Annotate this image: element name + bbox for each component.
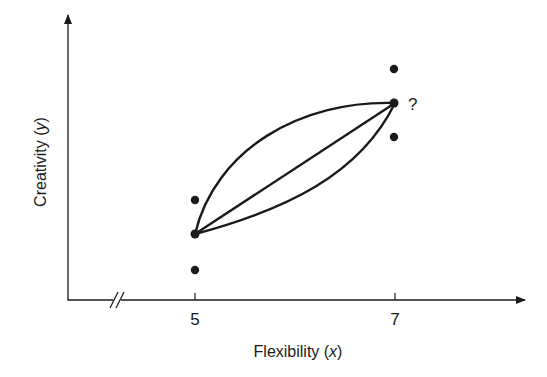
- question-mark-annotation: ?: [408, 95, 417, 114]
- x-tick-label-7: 7: [390, 310, 399, 329]
- straight-line: [195, 103, 395, 234]
- data-point-5-mid: [191, 230, 200, 239]
- data-point-5-high: [191, 196, 199, 204]
- data-point-7-mid: [390, 99, 399, 108]
- x-tick-label-5: 5: [190, 310, 199, 329]
- data-point-7-high: [390, 65, 398, 73]
- x-axis-label: Flexibility (x): [254, 343, 343, 360]
- data-point-5-low: [191, 266, 199, 274]
- y-axis-label: Creativity (y): [32, 117, 49, 207]
- diagram-canvas: 5 7 Flexibility (x) Creativity (y) ?: [0, 0, 547, 377]
- data-point-7-low: [390, 133, 398, 141]
